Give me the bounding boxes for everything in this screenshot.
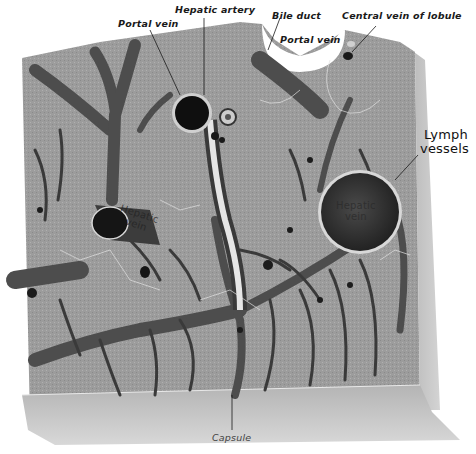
label-lymph-line2: vessels — [420, 142, 469, 156]
liver-section-illustration — [0, 0, 476, 454]
label-hepatic-vein-large-line2: vein — [336, 211, 376, 222]
label-portal-vein-right: Portal vein — [280, 34, 341, 45]
label-lymph-line1: Lymph — [424, 128, 469, 142]
label-hepatic-vein-large: Hepatic vein — [336, 200, 376, 222]
label-lymph-vessels: Lymph vessels — [424, 128, 469, 156]
label-central-vein-of-lobule: Central vein of lobule — [342, 10, 462, 21]
label-hepatic-artery: Hepatic artery — [175, 4, 255, 15]
label-bile-duct: Bile duct — [272, 10, 321, 21]
label-hepatic-vein-large-line1: Hepatic — [336, 200, 376, 211]
label-capsule: Capsule — [212, 432, 251, 443]
label-portal-vein-left: Portal vein — [118, 18, 179, 29]
